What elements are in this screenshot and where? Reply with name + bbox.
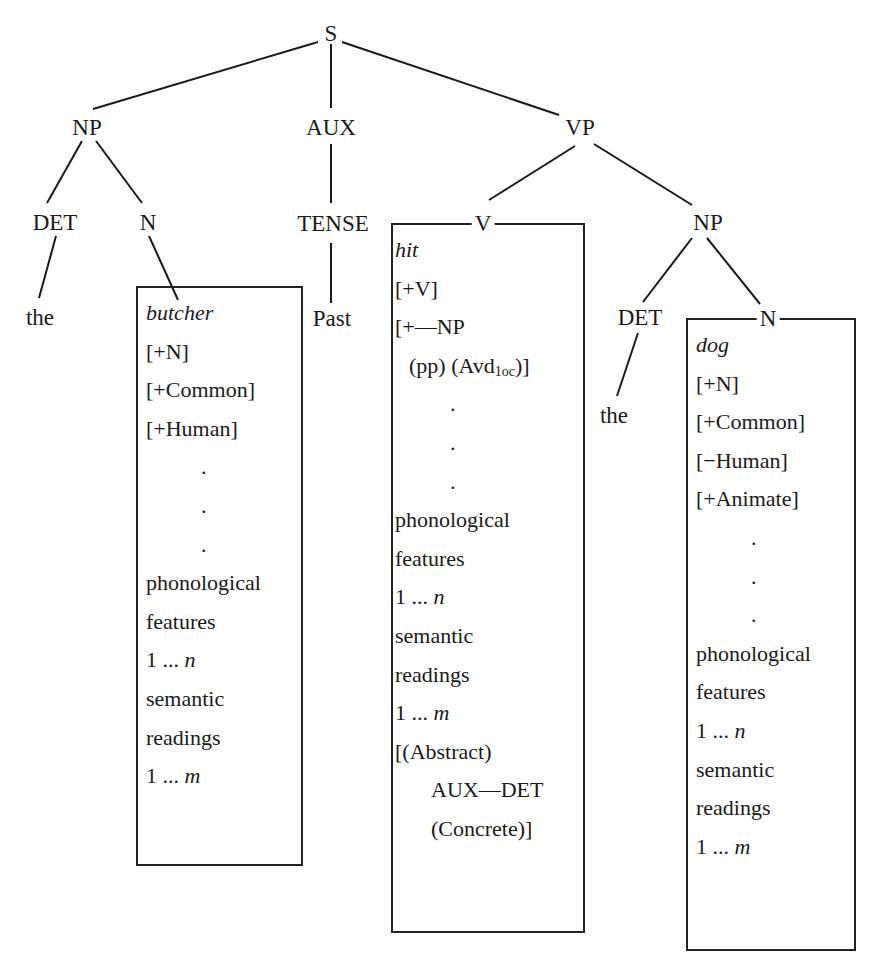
range-prefix: 1 ... — [146, 647, 185, 672]
features-label: features — [395, 540, 543, 579]
range-var: n — [434, 584, 445, 609]
subcat-continuation: (pp) (Avd1oc)] — [395, 347, 543, 386]
feature: [−Human] — [696, 442, 811, 481]
phonological-label: phonological — [146, 564, 261, 603]
node-s: S — [322, 22, 341, 45]
node-n-object: N — [757, 307, 780, 330]
lexical-entry-dog: dog [+N] [+Common] [−Human] [+Animate] .… — [686, 318, 856, 951]
hit-feature-list: hit [+V] [+—NP (pp) (Avd1oc)] . . . phon… — [395, 231, 543, 849]
readings-label: readings — [395, 656, 543, 695]
ellipsis-dot: . — [146, 526, 261, 565]
range-prefix: 1 ... — [696, 834, 735, 859]
semantic-label: semantic — [696, 751, 811, 790]
phon-range: 1 ... n — [146, 641, 261, 680]
leaf-the-object: the — [600, 404, 628, 427]
node-aux: AUX — [303, 116, 359, 139]
node-tense: TENSE — [294, 212, 372, 235]
range-var: m — [185, 763, 201, 788]
phon-range: 1 ... n — [696, 712, 811, 751]
range-prefix: 1 ... — [395, 584, 434, 609]
node-np-subject: NP — [69, 116, 104, 139]
features-label: features — [146, 603, 261, 642]
phon-range: 1 ... n — [395, 578, 543, 617]
range-var: m — [434, 700, 450, 725]
feature: [+Common] — [146, 371, 261, 410]
range-prefix: 1 ... — [146, 763, 185, 788]
edge-s-vp — [342, 42, 559, 115]
ellipsis-dot: . — [696, 558, 811, 597]
node-det-subject: DET — [30, 211, 81, 234]
ellipsis-dot: . — [696, 596, 811, 635]
selection-restriction: (Concrete)] — [395, 810, 543, 849]
ellipsis-dot: . — [395, 424, 543, 463]
subcat-prefix: (pp) (Avd — [409, 353, 495, 378]
range-prefix: 1 ... — [696, 718, 735, 743]
edge-np-n-obj — [707, 238, 760, 304]
semantic-label: semantic — [146, 680, 261, 719]
edge-s-np — [93, 42, 318, 109]
selection-restriction: [(Abstract) — [395, 733, 543, 772]
lexical-entry-butcher: butcher [+N] [+Common] [+Human] . . . ph… — [136, 286, 303, 866]
lexical-word: hit — [395, 231, 543, 270]
range-var: n — [185, 647, 196, 672]
lexical-word: butcher — [146, 294, 261, 333]
selection-restriction: AUX—DET — [395, 771, 543, 810]
range-var: n — [735, 718, 746, 743]
phonological-label: phonological — [395, 501, 543, 540]
node-np-object: NP — [690, 211, 725, 234]
range-prefix: 1 ... — [395, 700, 434, 725]
dog-feature-list: dog [+N] [+Common] [−Human] [+Animate] .… — [696, 326, 811, 866]
ellipsis-dot: . — [395, 385, 543, 424]
lexical-word: dog — [696, 326, 811, 365]
edge-np-n — [96, 141, 142, 203]
edge-np-det-obj — [643, 238, 692, 302]
feature: [+N] — [146, 333, 261, 372]
readings-label: readings — [696, 789, 811, 828]
node-det-object: DET — [615, 306, 666, 329]
edge-vp-np — [594, 144, 692, 205]
feature: [+—NP — [395, 308, 543, 347]
node-vp: VP — [562, 116, 597, 139]
sem-range: 1 ... m — [146, 757, 261, 796]
readings-label: readings — [146, 719, 261, 758]
features-label: features — [696, 673, 811, 712]
ellipsis-dot: . — [146, 448, 261, 487]
ellipsis-dot: . — [146, 487, 261, 526]
range-var: m — [735, 834, 751, 859]
edge-det-the — [39, 236, 56, 298]
feature: [+Human] — [146, 410, 261, 449]
phonological-label: phonological — [696, 635, 811, 674]
subcat-subscript: 1oc — [495, 364, 515, 379]
edge-np-det — [47, 141, 82, 203]
butcher-feature-list: butcher [+N] [+Common] [+Human] . . . ph… — [146, 294, 261, 796]
node-v: V — [472, 212, 495, 235]
feature: [+N] — [696, 365, 811, 404]
subcat-suffix: )] — [515, 353, 530, 378]
leaf-past: Past — [313, 307, 351, 330]
semantic-label: semantic — [395, 617, 543, 656]
leaf-the-subject: the — [26, 306, 54, 329]
ellipsis-dot: . — [696, 519, 811, 558]
lexical-entry-hit: hit [+V] [+—NP (pp) (Avd1oc)] . . . phon… — [391, 223, 585, 933]
sem-range: 1 ... m — [696, 828, 811, 867]
feature: [+V] — [395, 270, 543, 309]
feature: [+Common] — [696, 403, 811, 442]
sem-range: 1 ... m — [395, 694, 543, 733]
edge-det-the-obj — [617, 333, 638, 396]
feature: [+Animate] — [696, 480, 811, 519]
edge-vp-v — [489, 146, 575, 200]
ellipsis-dot: . — [395, 463, 543, 502]
node-n-subject: N — [137, 211, 160, 234]
